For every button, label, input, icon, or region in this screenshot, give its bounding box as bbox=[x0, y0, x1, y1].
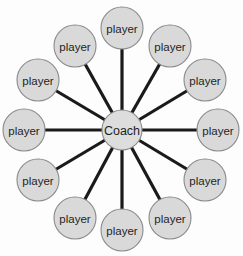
star-network-diagram: playerplayerplayerplayerplayerplayerplay… bbox=[0, 0, 243, 256]
node-label-player-7: player bbox=[106, 225, 137, 237]
node-label-player-2: player bbox=[154, 41, 185, 53]
node-player-1[interactable]: player bbox=[101, 7, 143, 49]
node-label-player-11: player bbox=[22, 75, 53, 87]
network-canvas: playerplayerplayerplayerplayerplayerplay… bbox=[0, 0, 243, 256]
node-player-6[interactable]: player bbox=[149, 197, 191, 239]
node-label-player-10: player bbox=[8, 125, 39, 137]
node-player-7[interactable]: player bbox=[101, 209, 143, 251]
node-player-8[interactable]: player bbox=[54, 197, 96, 239]
node-player-10[interactable]: player bbox=[3, 109, 45, 151]
nodes-layer: playerplayerplayerplayerplayerplayerplay… bbox=[3, 7, 239, 251]
node-player-3[interactable]: player bbox=[184, 59, 226, 101]
node-label-player-9: player bbox=[22, 175, 53, 187]
node-label-player-8: player bbox=[59, 213, 90, 225]
node-player-12[interactable]: player bbox=[54, 25, 96, 67]
node-player-5[interactable]: player bbox=[184, 159, 226, 201]
node-label-player-12: player bbox=[59, 41, 90, 53]
node-label-player-4: player bbox=[202, 125, 233, 137]
node-label-player-3: player bbox=[189, 75, 220, 87]
node-player-9[interactable]: player bbox=[17, 159, 59, 201]
node-player-2[interactable]: player bbox=[149, 25, 191, 67]
node-label-player-6: player bbox=[154, 213, 185, 225]
node-label-player-1: player bbox=[106, 23, 137, 35]
node-player-11[interactable]: player bbox=[17, 59, 59, 101]
node-coach[interactable]: Coach bbox=[102, 110, 142, 150]
node-label-player-5: player bbox=[189, 175, 220, 187]
node-label-coach: Coach bbox=[104, 124, 140, 138]
node-player-4[interactable]: player bbox=[197, 109, 239, 151]
